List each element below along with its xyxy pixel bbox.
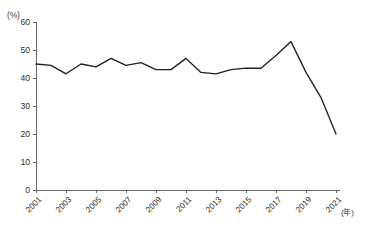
x-tick-label: 2007 — [114, 195, 134, 215]
y-tick-label: 0 — [25, 185, 30, 195]
y-tick-label: 30 — [20, 101, 30, 111]
x-tick-label: 2021 — [324, 195, 344, 215]
chart-container: (%) (年) 0102030405060 200120032005200720… — [0, 0, 366, 229]
x-tick-label: 2003 — [54, 195, 74, 215]
y-tick-label: 10 — [20, 157, 30, 167]
y-axis-group: 0102030405060 — [20, 17, 36, 195]
y-tick-label-group: 0102030405060 — [20, 17, 30, 195]
x-tick-label: 2017 — [264, 195, 284, 215]
x-tick-label: 2015 — [234, 195, 254, 215]
x-tick-label: 2013 — [204, 195, 224, 215]
line-chart-plot: 0102030405060 20012003200520072009201120… — [0, 0, 366, 229]
x-axis-group: 2001200320052007200920112013201520172019… — [24, 190, 344, 214]
x-tick-label-group: 2001200320052007200920112013201520172019… — [24, 195, 344, 215]
y-tick-label: 50 — [20, 45, 30, 55]
y-tick-label: 60 — [20, 17, 30, 27]
y-tick-label: 40 — [20, 73, 30, 83]
x-tick-label: 2001 — [24, 195, 44, 215]
x-tick-label: 2009 — [144, 195, 164, 215]
data-series-line — [36, 42, 336, 134]
y-tick-label: 20 — [20, 129, 30, 139]
x-tick-label: 2011 — [175, 195, 194, 214]
x-tick-label: 2005 — [84, 195, 104, 215]
x-tick-label: 2019 — [294, 195, 314, 215]
